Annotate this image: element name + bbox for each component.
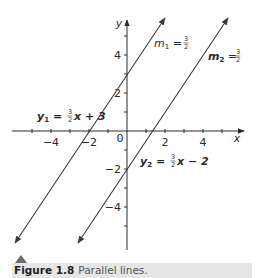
y-tick-label: −2 [105, 163, 121, 176]
svg-text:2: 2 [171, 161, 175, 169]
parallel-lines-plot: −4 −2 0 2 4 x 4 2 −2 −4 y y1 = [0, 0, 260, 278]
equation-label-y1: y1 = 3 2 x + 3 [37, 108, 106, 124]
x-tick-label: 4 [200, 136, 207, 149]
origin-label: 0 [117, 132, 124, 145]
svg-text:2: 2 [68, 116, 72, 124]
svg-text:m1 =: m1 = [154, 37, 182, 51]
y-axis-label: y [115, 17, 123, 30]
figure-caption: Figure 1.8Parallel lines. [14, 263, 148, 278]
slope-label-m2: m2 = 3 2 [208, 48, 241, 64]
svg-text:2: 2 [236, 56, 240, 64]
x-tick-label: −2 [81, 136, 97, 149]
x-axis-label: x [233, 132, 241, 145]
x-tick-label: 2 [162, 136, 169, 149]
figure-number: Figure 1.8 [14, 264, 74, 276]
svg-text:x − 2: x − 2 [176, 155, 209, 168]
x-tick-label: −4 [43, 136, 59, 149]
svg-text:x + 3: x + 3 [73, 110, 106, 123]
figure-description: Parallel lines. [78, 264, 147, 276]
svg-text:3: 3 [171, 153, 175, 161]
y-tick-label: 4 [114, 49, 121, 62]
svg-text:m2 =: m2 = [208, 50, 237, 64]
svg-text:y2 =: y2 = [140, 155, 165, 169]
svg-text:2: 2 [184, 43, 188, 51]
svg-text:3: 3 [236, 48, 240, 56]
y-tick-label: −4 [105, 201, 121, 214]
slope-label-m1: m1 = 3 2 [154, 35, 189, 51]
equation-label-y2: y2 = 3 2 x − 2 [140, 153, 209, 169]
x-axis: −4 −2 0 2 4 x [12, 129, 244, 149]
svg-text:3: 3 [184, 35, 188, 43]
svg-text:3: 3 [68, 108, 72, 116]
caption-marker-icon [15, 255, 27, 263]
svg-text:y1 =: y1 = [37, 110, 62, 124]
